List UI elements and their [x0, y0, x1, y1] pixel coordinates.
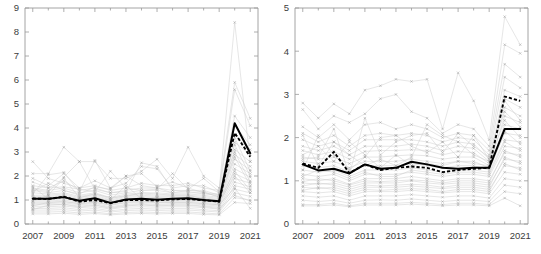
series-marker-x-icon — [441, 151, 444, 154]
series-marker-x-icon — [519, 149, 522, 152]
x-tick-label: 2021 — [240, 230, 261, 241]
series-marker-x-icon — [503, 156, 506, 159]
series-marker-x-icon — [233, 194, 236, 197]
y-tick-label: 3 — [284, 89, 289, 100]
series-marker-x-icon — [503, 119, 506, 122]
series-marker-x-icon — [519, 115, 522, 118]
series-marker-x-icon — [519, 76, 522, 79]
chart-svg-left: 0123456789200720092011201320152017201920… — [0, 0, 271, 254]
y-tick-label: 0 — [14, 218, 19, 229]
y-tick-label: 7 — [14, 50, 19, 61]
series-marker-x-icon — [426, 123, 429, 126]
series-marker-x-icon — [109, 170, 112, 173]
series-marker-x-icon — [140, 170, 143, 173]
series-group — [302, 43, 522, 147]
x-tick-label: 2007 — [292, 230, 313, 241]
series-marker-x-icon — [32, 181, 35, 184]
series-marker-x-icon — [348, 139, 351, 142]
series-marker-x-icon — [519, 205, 522, 208]
x-tick-label: 2015 — [146, 230, 167, 241]
figure-container: 0123456789200720092011201320152017201920… — [0, 0, 541, 254]
chart-panel-left: 0123456789200720092011201320152017201920… — [0, 0, 271, 254]
y-tick-label: 0 — [284, 218, 289, 229]
series-marker-x-icon — [503, 197, 506, 200]
y-tick-label: 6 — [14, 74, 19, 85]
series-marker-x-icon — [333, 103, 336, 106]
x-tick-label: 2009 — [323, 230, 344, 241]
series-marker-x-icon — [171, 177, 174, 180]
series-line — [33, 90, 250, 193]
series-marker-x-icon — [519, 43, 522, 46]
series-line — [303, 17, 520, 140]
y-tick-label: 5 — [284, 2, 289, 13]
series-marker-x-icon — [348, 177, 351, 180]
series-marker-x-icon — [302, 108, 305, 111]
series-marker-x-icon — [333, 154, 336, 157]
series-marker-x-icon — [233, 175, 236, 178]
series-marker-x-icon — [302, 139, 305, 142]
series-marker-x-icon — [302, 154, 305, 157]
series-marker-x-icon — [156, 158, 159, 161]
x-tick-label: 2013 — [115, 230, 136, 241]
series-marker-x-icon — [519, 106, 522, 109]
x-tick-label: 2019 — [209, 230, 230, 241]
y-tick-label: 9 — [14, 2, 19, 13]
series-marker-x-icon — [519, 87, 522, 90]
series-marker-x-icon — [333, 123, 336, 126]
series-marker-x-icon — [94, 180, 97, 183]
series-marker-x-icon — [348, 175, 351, 178]
series-marker-x-icon — [348, 162, 351, 165]
series-marker-x-icon — [125, 184, 128, 187]
axis-frame — [25, 8, 258, 224]
series-marker-x-icon — [317, 134, 320, 137]
chart-panel-right: 01234520072009201120132015201720192021 — [270, 0, 541, 254]
series-marker-x-icon — [348, 167, 351, 170]
y-tick-label: 8 — [14, 26, 19, 37]
series-marker-x-icon — [472, 145, 475, 148]
series-marker-x-icon — [519, 119, 522, 122]
series-marker-x-icon — [519, 52, 522, 55]
series-marker-x-icon — [410, 156, 413, 159]
series-marker-x-icon — [348, 113, 351, 116]
series-marker-x-icon — [348, 149, 351, 152]
series-marker-x-icon — [441, 132, 444, 135]
x-tick-label: 2017 — [448, 230, 469, 241]
x-tick-label: 2011 — [85, 230, 105, 241]
series-line — [33, 82, 250, 188]
series-marker-x-icon — [348, 154, 351, 157]
series-marker-x-icon — [249, 117, 252, 120]
x-tick-label: 2015 — [416, 230, 437, 241]
series-marker-x-icon — [202, 177, 205, 180]
series-marker-x-icon — [410, 110, 413, 113]
series-marker-x-icon — [47, 182, 50, 185]
x-tick-label: 2019 — [479, 230, 500, 241]
series-marker-x-icon — [171, 172, 174, 175]
series-marker-x-icon — [519, 156, 522, 159]
series-marker-x-icon — [249, 136, 252, 139]
series-marker-x-icon — [333, 134, 336, 137]
y-tick-label: 4 — [284, 46, 289, 57]
series-marker-x-icon — [32, 160, 35, 163]
series-marker-x-icon — [519, 169, 522, 172]
plot-area — [302, 15, 522, 208]
series-marker-x-icon — [302, 134, 305, 137]
series-marker-x-icon — [348, 141, 351, 144]
series-marker-x-icon — [410, 145, 413, 148]
chart-svg-right: 01234520072009201120132015201720192021 — [270, 0, 541, 254]
series-marker-x-icon — [426, 117, 429, 120]
series-marker-x-icon — [348, 180, 351, 183]
y-tick-label: 5 — [14, 98, 19, 109]
series-marker-x-icon — [348, 121, 351, 124]
axis-frame — [295, 8, 528, 224]
series-marker-x-icon — [519, 95, 522, 98]
x-tick-label: 2017 — [178, 230, 199, 241]
series-marker-x-icon — [302, 132, 305, 135]
series-marker-x-icon — [472, 100, 475, 103]
series-marker-x-icon — [472, 154, 475, 157]
series-marker-x-icon — [519, 136, 522, 139]
series-marker-x-icon — [364, 154, 367, 157]
series-marker-x-icon — [519, 143, 522, 146]
series-marker-x-icon — [302, 126, 305, 129]
series-marker-x-icon — [519, 121, 522, 124]
series-line — [303, 64, 520, 150]
